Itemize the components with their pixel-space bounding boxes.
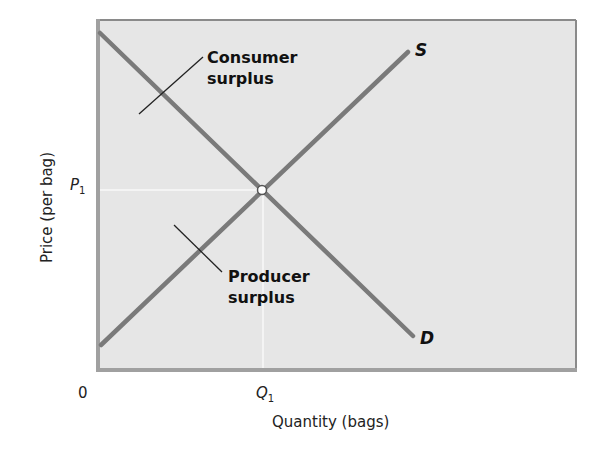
q1-subscript: 1 (268, 393, 274, 404)
x-axis-title: Quantity (bags) (272, 413, 389, 431)
plot-area (99, 20, 576, 370)
demand-label: D (420, 328, 434, 348)
producer-surplus-line1: Producer (228, 266, 310, 287)
p1-subscript: 1 (79, 185, 85, 196)
equilibrium-point (258, 186, 267, 195)
y-axis-title: Price (per bag) (38, 152, 56, 263)
p1-letter: P (70, 176, 79, 194)
consumer-surplus-line2: surplus (207, 68, 297, 89)
consumer-surplus-label: Consumer surplus (207, 47, 297, 89)
chart-canvas (0, 0, 608, 459)
producer-surplus-line2: surplus (228, 287, 310, 308)
p1-tick-label: P1 (70, 176, 85, 196)
producer-surplus-label: Producer surplus (228, 266, 310, 308)
consumer-surplus-line1: Consumer (207, 47, 297, 68)
supply-label: S (415, 40, 427, 60)
supply-demand-chart: Consumer surplus Producer surplus S D 0 … (0, 0, 608, 459)
origin-label: 0 (78, 384, 88, 402)
q1-letter: Q (256, 384, 268, 402)
q1-tick-label: Q1 (256, 384, 274, 404)
